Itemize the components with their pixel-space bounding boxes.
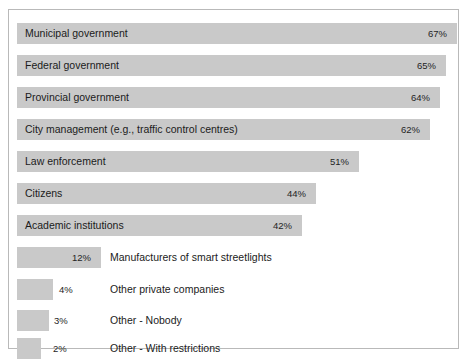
bar-row: Provincial government64% [9,87,458,108]
bar-category-label: Academic institutions [25,215,124,236]
bar-value-label: 2% [53,338,67,359]
bar-row: Other - With restrictions2% [9,338,458,359]
bar-category-label: Law enforcement [25,151,106,172]
bar-row: Other private companies4% [9,279,458,300]
bar-row: City management (e.g., traffic control c… [9,119,458,140]
bar [17,279,53,300]
bar-category-label: Other private companies [110,279,224,300]
bar-row: Municipal government67% [9,23,458,44]
bar-value-label: 12% [71,247,91,268]
bar-value-label: 67% [427,23,447,44]
bar-category-label: Citizens [25,183,62,204]
bar-row: Law enforcement51% [9,151,458,172]
bar-row: Academic institutions42% [9,215,458,236]
bar-row: Manufacturers of smart streetlights12% [9,247,458,268]
bar-value-label: 64% [410,87,430,108]
bar-value-label: 65% [416,55,436,76]
bar-value-label: 4% [59,279,73,300]
bar-value-label: 42% [272,215,292,236]
bar-category-label: Federal government [25,55,119,76]
chart-frame: Municipal government67%Federal governmen… [8,9,459,349]
bar-category-label: Other - With restrictions [110,338,220,359]
bar-category-label: City management (e.g., traffic control c… [25,119,238,140]
bar-chart-plot-area: Municipal government67%Federal governmen… [9,10,458,348]
bar-category-label: Other - Nobody [110,310,182,331]
bar-value-label: 44% [286,183,306,204]
bar-category-label: Manufacturers of smart streetlights [110,247,272,268]
bar-value-label: 3% [54,310,68,331]
bar-category-label: Municipal government [25,23,128,44]
bar-row: Citizens44% [9,183,458,204]
bar [17,338,41,359]
bar-value-label: 62% [400,119,420,140]
bar-row: Other - Nobody3% [9,310,458,331]
bar [17,310,49,331]
bar-row: Federal government65% [9,55,458,76]
bar-category-label: Provincial government [25,87,129,108]
bar-value-label: 51% [329,151,349,172]
